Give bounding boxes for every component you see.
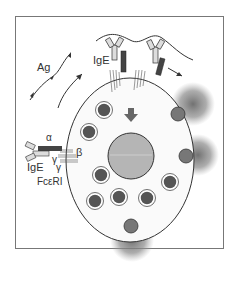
ige-receptor-complex-2 xyxy=(147,39,165,75)
label-alpha: α xyxy=(46,133,52,143)
nucleus xyxy=(108,133,154,179)
antigen-left xyxy=(30,54,70,100)
label-beta: β xyxy=(76,147,82,158)
label-gamma-2: γ xyxy=(56,163,61,173)
label-fceri: FcεRI xyxy=(37,177,63,187)
label-ige-top: IgE xyxy=(93,55,110,66)
mast-cell-diagram xyxy=(0,0,239,282)
label-ag: Ag xyxy=(37,62,50,73)
label-ige-left: IgE xyxy=(27,162,44,173)
binding-arrow-icon xyxy=(58,74,82,108)
